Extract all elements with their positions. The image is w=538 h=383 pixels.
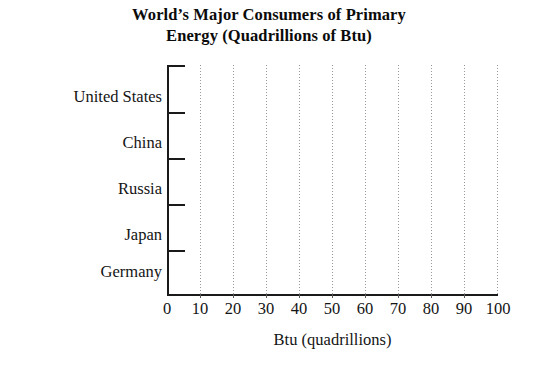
x-axis-tick-30 (266, 294, 267, 298)
y-axis-label-russia: Russia (118, 180, 162, 198)
gridline-30 (266, 65, 267, 294)
y-axis-tick-3 (168, 204, 185, 206)
y-axis-tick-2 (168, 158, 185, 160)
gridline-100 (497, 65, 498, 294)
gridline-90 (464, 65, 465, 294)
gridline-80 (431, 65, 432, 294)
gridline-20 (233, 65, 234, 294)
y-axis-line (167, 65, 169, 295)
y-axis-tick-4 (168, 250, 185, 252)
x-axis-tick-10 (200, 294, 201, 298)
y-axis-tick-0 (168, 65, 185, 67)
gridline-70 (398, 65, 399, 294)
y-axis-label-japan: Japan (124, 226, 162, 244)
gridline-40 (299, 65, 300, 294)
gridline-50 (332, 65, 333, 294)
x-axis-tick-90 (464, 294, 465, 298)
plot-area (167, 65, 498, 295)
x-axis-tick-label-100: 100 (476, 299, 520, 318)
x-axis-title: Btu (quadrillions) (167, 330, 498, 350)
x-axis-tick-50 (332, 294, 333, 298)
chart-title-line-2: Energy (Quadrillions of Btu) (0, 25, 538, 46)
y-axis-tick-1 (168, 112, 185, 114)
x-axis-tick-80 (431, 294, 432, 298)
y-axis-label-germany: Germany (101, 263, 162, 281)
gridline-60 (365, 65, 366, 294)
x-axis-tick-60 (365, 294, 366, 298)
y-axis-label-china: China (123, 134, 162, 152)
x-axis-tick-70 (398, 294, 399, 298)
x-axis-tick-20 (233, 294, 234, 298)
chart-title: World’s Major Consumers of Primary Energ… (0, 4, 538, 46)
x-axis-tick-40 (299, 294, 300, 298)
chart-screenshot: World’s Major Consumers of Primary Energ… (0, 0, 538, 383)
chart-title-line-1: World’s Major Consumers of Primary (0, 4, 538, 25)
gridline-10 (200, 65, 201, 294)
y-axis-label-united-states: United States (74, 88, 162, 106)
